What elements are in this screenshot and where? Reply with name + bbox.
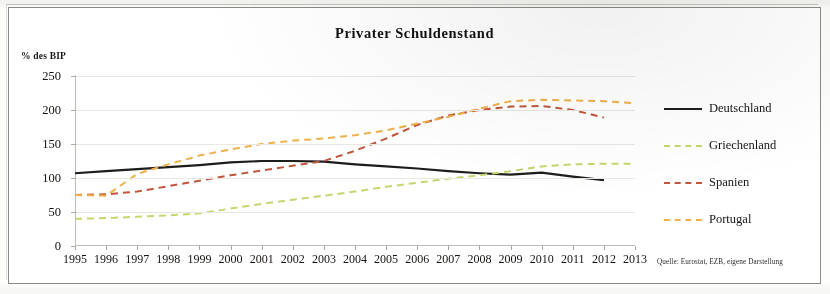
x-tick-label: 2009	[499, 252, 523, 267]
x-tick-mark	[386, 246, 387, 250]
x-tick-mark	[511, 246, 512, 250]
x-tick-label: 2012	[592, 252, 616, 267]
x-tick-label: 2001	[250, 252, 274, 267]
gridline	[75, 212, 635, 213]
x-tick-label: 2000	[219, 252, 243, 267]
legend-item-deutschland[interactable]: Deutschland	[664, 90, 829, 127]
x-tick-label: 2005	[374, 252, 398, 267]
x-tick-label: 2006	[405, 252, 429, 267]
scanned-page: Privater Schuldenstand % des BIP 0501001…	[0, 0, 830, 294]
x-tick-mark	[635, 246, 636, 250]
x-tick-mark	[417, 246, 418, 250]
x-tick-mark	[199, 246, 200, 250]
legend-label: Deutschland	[709, 101, 771, 116]
x-tick-label: 1998	[156, 252, 180, 267]
x-tick-mark	[573, 246, 574, 250]
y-tick-label: 50	[1, 205, 61, 220]
gridline	[75, 76, 635, 77]
x-tick-label: 1995	[63, 252, 87, 267]
series-line-spanien	[75, 106, 604, 195]
legend-label: Portugal	[709, 212, 751, 227]
series-line-griechenland	[75, 164, 635, 219]
x-tick-label: 2010	[530, 252, 554, 267]
y-axis-label: % des BIP	[21, 51, 66, 61]
x-tick-mark	[106, 246, 107, 250]
y-tick-label: 0	[1, 239, 61, 254]
x-tick-mark	[231, 246, 232, 250]
x-tick-mark	[448, 246, 449, 250]
x-tick-mark	[542, 246, 543, 250]
x-tick-label: 1997	[125, 252, 149, 267]
x-tick-mark	[604, 246, 605, 250]
x-tick-mark	[137, 246, 138, 250]
x-tick-mark	[324, 246, 325, 250]
y-tick-mark	[71, 76, 76, 77]
legend-item-spanien[interactable]: Spanien	[664, 164, 829, 201]
source-note: Quelle: Eurostat, EZB, eigene Darstellun…	[657, 258, 783, 266]
y-tick-mark	[71, 178, 76, 179]
x-tick-label: 1996	[94, 252, 118, 267]
plot-area: 0501001502002501995199619971998199920002…	[75, 76, 635, 246]
legend-label: Spanien	[709, 175, 749, 190]
y-tick-label: 150	[1, 137, 61, 152]
y-tick-label: 200	[1, 103, 61, 118]
series-line-portugal	[75, 100, 635, 196]
x-tick-mark	[262, 246, 263, 250]
y-tick-label: 250	[1, 69, 61, 84]
x-tick-mark	[168, 246, 169, 250]
series-lines	[75, 76, 635, 246]
y-tick-label: 100	[1, 171, 61, 186]
chart-legend: DeutschlandGriechenlandSpanienPortugal	[664, 90, 829, 238]
chart-frame: Privater Schuldenstand % des BIP 0501001…	[8, 7, 821, 284]
legend-item-portugal[interactable]: Portugal	[664, 201, 829, 238]
legend-item-griechenland[interactable]: Griechenland	[664, 127, 829, 164]
y-tick-mark	[71, 110, 76, 111]
x-tick-label: 1999	[187, 252, 211, 267]
x-tick-label: 2007	[436, 252, 460, 267]
x-tick-mark	[293, 246, 294, 250]
x-tick-mark	[75, 246, 76, 250]
legend-label: Griechenland	[709, 138, 776, 153]
x-tick-mark	[479, 246, 480, 250]
x-tick-label: 2008	[467, 252, 491, 267]
y-tick-mark	[71, 212, 76, 213]
x-tick-label: 2013	[623, 252, 647, 267]
x-tick-label: 2004	[343, 252, 367, 267]
x-tick-label: 2003	[312, 252, 336, 267]
x-tick-label: 2002	[281, 252, 305, 267]
gridline	[75, 110, 635, 111]
x-tick-label: 2011	[561, 252, 585, 267]
y-tick-mark	[71, 144, 76, 145]
gridline	[75, 178, 635, 179]
gridline	[75, 144, 635, 145]
chart-title: Privater Schuldenstand	[9, 25, 820, 42]
x-tick-mark	[355, 246, 356, 250]
